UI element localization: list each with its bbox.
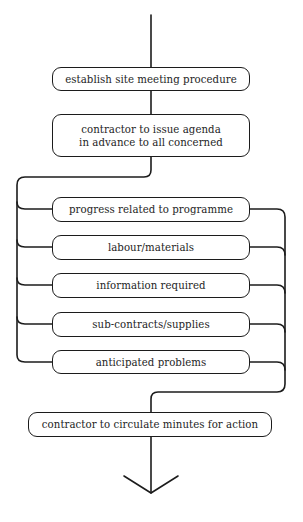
agenda-item-labour-materials: labour/materials	[52, 235, 250, 260]
step-issue-agenda: contractor to issue agenda in advance to…	[52, 114, 250, 157]
left-branch-1	[17, 202, 52, 209]
right-branch-2	[250, 247, 285, 255]
right-branch-3	[250, 285, 285, 293]
left-branch-3	[17, 278, 52, 285]
right-branch-4	[250, 324, 285, 332]
left-branch-2	[17, 240, 52, 247]
agenda-item-information: information required	[52, 273, 250, 298]
agenda-item-progress: progress related to programme	[52, 197, 250, 222]
agenda-item-subcontracts: sub-contracts/supplies	[52, 312, 250, 337]
step-establish-procedure: establish site meeting procedure	[52, 67, 250, 91]
site-meeting-flowchart: establish site meeting procedure contrac…	[0, 0, 303, 522]
agenda-item-anticipated-problems: anticipated problems	[52, 350, 250, 374]
right-branch-5	[250, 362, 285, 370]
left-branch-4	[17, 317, 52, 324]
step-circulate-minutes: contractor to circulate minutes for acti…	[28, 412, 272, 437]
